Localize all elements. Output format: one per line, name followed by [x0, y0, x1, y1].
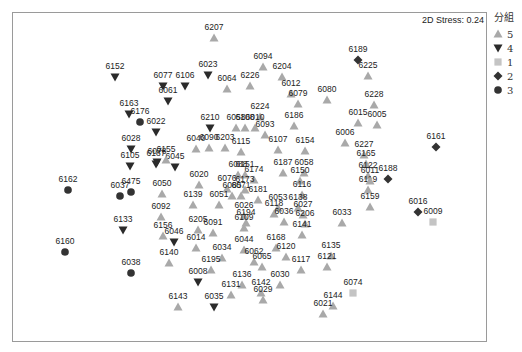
data-point: 6109	[235, 212, 254, 232]
point-label: 6224	[251, 101, 270, 111]
triangle-up-marker-icon	[215, 201, 224, 209]
data-point: 6210	[201, 112, 220, 133]
point-label: 6091	[204, 217, 223, 227]
data-point: 6038	[122, 257, 141, 277]
triangle-up-marker-icon	[223, 85, 232, 93]
data-point: 6035	[205, 291, 224, 312]
triangle-up-marker-icon	[192, 244, 201, 252]
legend-label: 2	[507, 71, 513, 82]
triangle-down-marker-icon	[111, 73, 120, 81]
point-label: 6016	[409, 196, 428, 206]
point-label: 6074	[344, 277, 363, 287]
data-point: 6159	[361, 191, 380, 211]
legend-item: 4	[492, 41, 522, 55]
data-point: 6186	[285, 110, 304, 130]
square-marker-icon	[349, 289, 356, 296]
legend-label: 5	[507, 29, 513, 40]
point-label: 6189	[349, 44, 368, 54]
triangle-up-marker-icon	[228, 192, 237, 200]
triangle-up-marker-icon	[241, 124, 250, 132]
circle-marker-icon	[127, 269, 135, 277]
point-label: 6107	[269, 134, 288, 144]
data-point: 6140	[160, 247, 179, 267]
triangle-down-marker-icon	[152, 128, 161, 136]
point-label: 6009	[424, 206, 443, 216]
data-point: 6015	[349, 107, 368, 127]
point-label: 6120	[277, 241, 296, 251]
point-label: 6160	[56, 236, 75, 246]
legend-item: 1	[492, 55, 522, 69]
data-point: 6091	[204, 217, 223, 237]
point-label: 6176	[131, 106, 150, 116]
point-label: 6079	[289, 88, 308, 98]
triangle-up-marker-icon	[207, 266, 216, 274]
triangle-up-marker-icon	[301, 147, 310, 155]
point-label: 6155	[157, 144, 176, 154]
data-point: 6009	[424, 206, 443, 226]
triangle-up-marker-icon	[370, 101, 379, 109]
point-label: 6021	[314, 298, 333, 308]
point-label: 6022	[147, 116, 166, 126]
triangle-up-marker-icon	[232, 124, 241, 132]
point-label: 6165	[357, 148, 376, 158]
data-point: 6154	[296, 135, 315, 155]
data-point: 6050	[153, 178, 172, 198]
point-label: 6117	[292, 254, 311, 264]
data-point: 6020	[190, 169, 209, 189]
triangle-up-marker-icon	[174, 303, 183, 311]
point-label: 6106	[176, 70, 195, 80]
legend-label: 1	[507, 57, 513, 68]
point-label: 6051	[210, 189, 229, 199]
data-point: 6141	[293, 219, 312, 239]
stress-annotation: 2D Stress: 0.24	[422, 15, 484, 25]
triangle-up-marker-icon	[227, 291, 236, 299]
point-label: 6161	[427, 131, 446, 141]
triangle-up-marker-icon	[290, 122, 299, 130]
triangle-down-marker-icon	[170, 238, 179, 246]
triangle-up-marker-icon	[246, 82, 255, 90]
point-label: 6226	[241, 70, 260, 80]
point-label: 6093	[256, 119, 275, 129]
triangle-down-marker-icon	[194, 278, 203, 286]
point-label: 6228	[365, 89, 384, 99]
point-label: 6195	[202, 254, 221, 264]
data-point: 6160	[56, 236, 75, 256]
point-label: 6094	[254, 51, 273, 61]
legend-item: 3	[492, 83, 522, 97]
triangle-up-marker-icon	[319, 310, 328, 318]
point-label: 6065	[253, 251, 272, 261]
point-label: 6044	[235, 234, 254, 244]
triangle-up-marker-icon	[274, 146, 283, 154]
data-point: 6006	[336, 127, 355, 147]
triangle-up-marker-icon	[192, 145, 201, 153]
data-point: 6029	[254, 284, 273, 304]
circle-marker-icon	[61, 248, 69, 256]
point-label: 6206	[296, 208, 315, 218]
data-point: 6121	[318, 251, 337, 271]
triangle-up-marker-icon	[158, 190, 167, 198]
circle-marker-icon	[116, 192, 124, 200]
diamond-marker-icon	[414, 208, 423, 217]
data-point: 6139	[184, 189, 203, 209]
data-point: 6036	[275, 206, 294, 226]
triangle-down-marker-icon	[119, 226, 128, 234]
data-point: 6162	[59, 174, 78, 194]
triangle-up-marker-icon	[279, 169, 288, 177]
data-point: 6107	[269, 134, 288, 154]
data-point: 6023	[199, 59, 218, 80]
data-point: 6475	[122, 176, 141, 196]
data-point: 6094	[254, 51, 273, 71]
point-label: 6152	[106, 61, 125, 71]
triangle-down-marker-icon	[181, 82, 190, 90]
triangle-up-marker-icon	[341, 139, 350, 147]
point-label: 6162	[59, 174, 78, 184]
point-label: 6109	[235, 212, 254, 222]
point-label: 6133	[114, 214, 133, 224]
data-point: 6074	[344, 277, 363, 297]
triangle-down-marker-icon	[204, 71, 213, 79]
triangle-up-icon	[492, 28, 504, 40]
triangle-up-marker-icon	[373, 121, 382, 129]
triangle-up-marker-icon	[323, 263, 332, 271]
triangle-down-marker-icon	[126, 162, 135, 170]
square-marker-icon	[429, 218, 436, 225]
